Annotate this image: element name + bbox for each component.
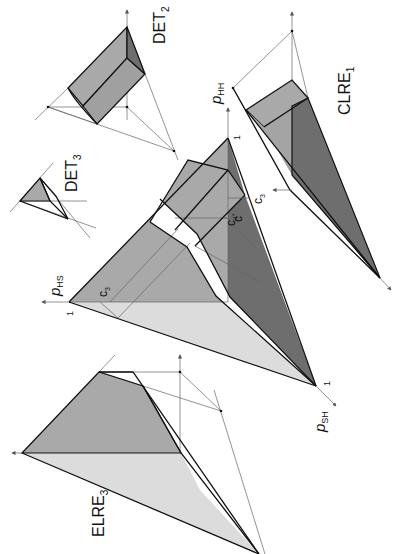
clre1-label: CLRE1 bbox=[336, 66, 356, 115]
det2-guide bbox=[35, 88, 68, 120]
axis-sh-tick: 1 bbox=[322, 381, 332, 386]
elre3-panel: ELRE3 bbox=[12, 355, 265, 554]
clre1-guide bbox=[233, 31, 292, 88]
elre3-label: ELRE3 bbox=[90, 489, 110, 537]
det2-label: DET2 bbox=[151, 6, 171, 44]
axis-sh-arrow-icon bbox=[316, 386, 336, 406]
det3-edge bbox=[20, 201, 68, 219]
elre3-guide bbox=[99, 355, 115, 372]
axis-sh-label: pSH bbox=[311, 411, 330, 433]
det2-panel: DET2 bbox=[35, 6, 178, 160]
elre3-region-medium bbox=[22, 372, 181, 453]
axis-hs-tick: 1 bbox=[65, 311, 75, 316]
det3-label: DET3 bbox=[63, 154, 83, 192]
figure-canvas: DET2 DET3 CLRE1 bbox=[0, 0, 397, 554]
c3-label: c3 bbox=[251, 194, 266, 204]
det3-panel: DET3 bbox=[10, 154, 96, 238]
clre1-region-dark bbox=[292, 98, 380, 278]
det2-guide bbox=[127, 107, 174, 151]
clre1-tip-arrow-icon bbox=[380, 278, 391, 290]
elre3-guide bbox=[180, 372, 221, 411]
axis-hh-label: pHH bbox=[207, 83, 226, 105]
axis-hh-tick: 1 bbox=[232, 135, 242, 140]
axis-hs-label: pHS bbox=[46, 275, 65, 297]
